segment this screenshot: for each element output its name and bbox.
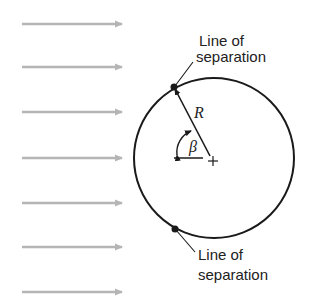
top-label-line1: Line of: [199, 32, 245, 49]
bottom-label-line2: separation: [198, 266, 268, 283]
flow-arrows: [22, 24, 122, 292]
angle-label: β: [188, 138, 197, 156]
bottom-label-line1: Line of: [198, 246, 244, 263]
top-label-line2: separation: [196, 48, 266, 65]
cylinder-circle: [134, 78, 294, 238]
cylinder-flow-diagram: Line of separation Line of separation R …: [0, 0, 313, 302]
radius-label: R: [193, 104, 204, 121]
center-mark: [208, 156, 218, 166]
